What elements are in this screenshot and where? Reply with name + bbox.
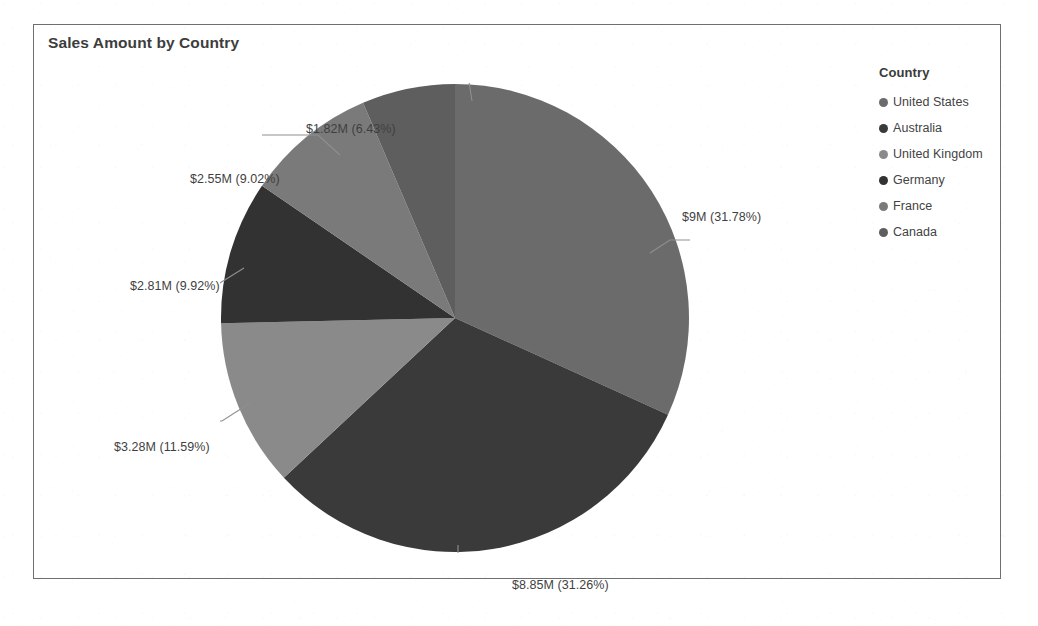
data-label-australia: $8.85M (31.26%) bbox=[512, 578, 609, 592]
legend-item-label: France bbox=[893, 199, 932, 213]
legend-marker-icon bbox=[879, 202, 888, 211]
legend-item-united-kingdom[interactable]: United Kingdom bbox=[879, 141, 1038, 167]
pie-chart-svg bbox=[220, 83, 690, 553]
legend-item-label: United States bbox=[893, 95, 969, 109]
legend-item-australia[interactable]: Australia bbox=[879, 115, 1038, 141]
pie-chart-visual: Sales Amount by Country $9M (31.78%) $1.… bbox=[33, 24, 1001, 579]
legend-title: Country bbox=[879, 65, 1038, 80]
legend-item-germany[interactable]: Germany bbox=[879, 167, 1038, 193]
legend-marker-icon bbox=[879, 176, 888, 185]
data-label-united-states: $9M (31.78%) bbox=[682, 210, 761, 224]
legend-item-france[interactable]: France bbox=[879, 193, 1038, 219]
legend: Country United StatesAustraliaUnited Kin… bbox=[879, 65, 1038, 245]
legend-marker-icon bbox=[879, 228, 888, 237]
legend-marker-icon bbox=[879, 150, 888, 159]
legend-item-label: Canada bbox=[893, 225, 937, 239]
data-label-germany: $2.81M (9.92%) bbox=[130, 279, 220, 293]
legend-item-label: United Kingdom bbox=[893, 147, 983, 161]
legend-item-canada[interactable]: Canada bbox=[879, 219, 1038, 245]
legend-item-label: Australia bbox=[893, 121, 942, 135]
data-label-france: $2.55M (9.02%) bbox=[190, 172, 280, 186]
legend-item-united-states[interactable]: United States bbox=[879, 89, 1038, 115]
legend-marker-icon bbox=[879, 124, 888, 133]
plot-area: $9M (31.78%) $1.82M (6.43%) $2.55M (9.02… bbox=[34, 25, 1002, 580]
data-label-united-kingdom: $3.28M (11.59%) bbox=[114, 440, 210, 454]
legend-item-label: Germany bbox=[893, 173, 945, 187]
data-label-canada: $1.82M (6.43%) bbox=[306, 122, 396, 136]
legend-marker-icon bbox=[879, 98, 888, 107]
